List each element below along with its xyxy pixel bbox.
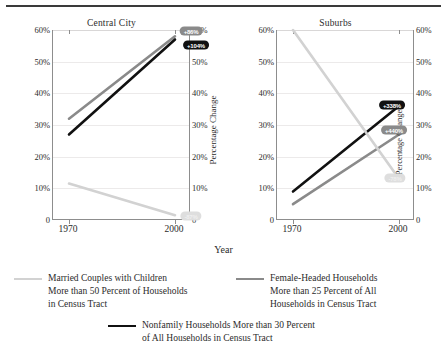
legend-swatch-nonfamily-icon	[108, 325, 136, 327]
change-badge-female-headed: +86%	[180, 27, 203, 36]
legend-label-female-headed: Female-Headed Households More than 25 Pe…	[270, 272, 377, 311]
y-tick-label-right: 0	[416, 215, 420, 225]
y-axis-title-right-suburbs: Percentage Change	[395, 110, 404, 175]
legend-label-nonfamily: Nonfamily Households More than 30 Percen…	[142, 319, 315, 345]
legend-entry-married-couples: Married Couples with Children More than …	[14, 272, 214, 311]
legend-label-line: of All Households in Census Tract	[142, 332, 315, 345]
legend-swatch-female-headed-icon	[236, 278, 264, 280]
x-tick-label: 1970	[59, 224, 78, 234]
legend-label-line: More than 25 Percent of All	[270, 285, 377, 298]
y-axis-tick-labels-left-suburbs: 0 10% 20% 30% 40% 50% 60%	[228, 30, 274, 220]
legend: Married Couples with Children More than …	[0, 272, 447, 359]
change-badge-female-headed: +440%	[381, 126, 407, 135]
x-axis-tick-labels-central-city: 1970 2000	[52, 224, 190, 238]
y-tick-label: 30%	[34, 120, 50, 130]
y-tick-label: 0	[270, 215, 274, 225]
y-tick-label-right: 20%	[192, 152, 208, 162]
y-tick-label-right: 20%	[416, 152, 432, 162]
y-tick-label: 10%	[258, 183, 274, 193]
y-tick-label: 50%	[34, 57, 50, 67]
series-line-female-headed	[293, 135, 399, 205]
y-tick-label: 10%	[34, 183, 50, 193]
change-badge-married-couples: -87%	[180, 212, 201, 221]
legend-label-line: in Census Tract	[48, 298, 188, 311]
y-axis-tick-labels-left: 0 10% 20% 30% 40% 50% 60%	[4, 30, 50, 220]
x-tick-label: 2000	[165, 224, 184, 234]
y-tick-label: 30%	[258, 120, 274, 130]
panel-central-city: Central City Percentage 0 10% 20% 30% 40…	[0, 10, 223, 260]
x-tick-label: 2000	[389, 224, 408, 234]
legend-swatch-married-couples-icon	[14, 278, 42, 280]
y-tick-label-right: 40%	[192, 88, 208, 98]
y-tick-label: 50%	[258, 57, 274, 67]
series-lines-central-city	[53, 30, 191, 220]
series-line-married-couples	[69, 184, 175, 216]
y-tick-label-right: 10%	[416, 183, 432, 193]
y-tick-label-right: 30%	[416, 120, 432, 130]
y-tick-label: 20%	[34, 152, 50, 162]
plot-area-central-city	[52, 30, 190, 220]
legend-label-line: More than 50 Percent of Households	[48, 285, 188, 298]
y-tick-label-right: 50%	[192, 57, 208, 67]
y-tick-label: 40%	[34, 88, 50, 98]
legend-label-line: Nonfamily Households More than 30 Percen…	[142, 319, 315, 332]
change-badge-nonfamily: +338%	[379, 101, 405, 110]
legend-label-married-couples: Married Couples with Children More than …	[48, 272, 188, 311]
y-tick-label-right: 10%	[192, 183, 208, 193]
y-axis-title-right-central-city: Percentage Change	[208, 95, 218, 164]
panels-container: Central City Percentage 0 10% 20% 30% 40…	[0, 10, 447, 260]
legend-entry-female-headed: Female-Headed Households More than 25 Pe…	[236, 272, 441, 311]
y-tick-label: 0	[46, 215, 50, 225]
y-tick-label-right: 50%	[416, 57, 432, 67]
y-axis-tick-labels-right-suburbs: 0 10% 20% 30% 40% 50% 60%	[416, 30, 447, 220]
panel-suburbs: Suburbs 0 10% 20% 30% 40% 50% 60%	[224, 10, 447, 260]
y-axis-title-right-line1: Percentage Change	[394, 110, 404, 175]
change-badge-nonfamily: +104%	[183, 41, 209, 50]
y-tick-label: 60%	[34, 25, 50, 35]
y-tick-label: 40%	[258, 88, 274, 98]
series-line-nonfamily	[69, 40, 175, 135]
x-axis-tick-labels-suburbs: 1970 2000	[276, 224, 414, 238]
legend-label-line: Married Couples with Children	[48, 272, 188, 285]
y-tick-label: 20%	[258, 152, 274, 162]
y-tick-label: 60%	[258, 25, 274, 35]
y-tick-label-right: 30%	[192, 120, 208, 130]
series-line-female-headed	[69, 36, 175, 118]
legend-entry-nonfamily: Nonfamily Households More than 30 Percen…	[108, 319, 408, 345]
change-badge-married-couples: -78%	[384, 174, 405, 183]
x-axis-title: Year	[0, 244, 447, 255]
y-tick-label-right: 60%	[416, 25, 432, 35]
legend-label-line: Female-Headed Households	[270, 272, 377, 285]
series-line-nonfamily	[293, 106, 399, 192]
x-tick-label: 1970	[283, 224, 302, 234]
legend-label-line: Households in Census Tract	[270, 298, 377, 311]
figure-two-panel-line-chart: Central City Percentage 0 10% 20% 30% 40…	[0, 0, 447, 359]
y-tick-label-right: 40%	[416, 88, 432, 98]
